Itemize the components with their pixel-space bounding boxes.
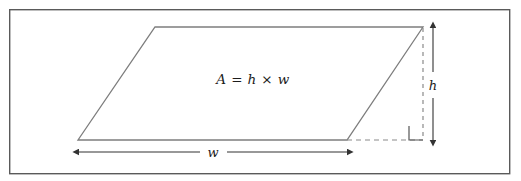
width-dimension-label: w bbox=[207, 145, 218, 160]
right-angle-marker bbox=[409, 126, 423, 140]
figure-canvas: A = h × w w h bbox=[0, 0, 521, 181]
height-dimension-label: h bbox=[429, 78, 437, 93]
parallelogram-area-figure: A = h × w w h bbox=[0, 0, 521, 181]
area-formula-text: A = h × w bbox=[214, 71, 289, 87]
